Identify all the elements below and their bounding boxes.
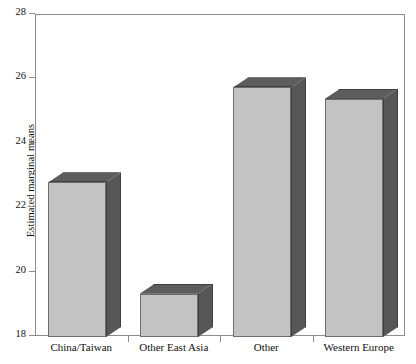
plot-area: [35, 14, 405, 336]
bar: [233, 77, 306, 337]
bar: [325, 89, 398, 337]
bar-chart: Estimated marginal means 182022242628 Ch…: [0, 0, 416, 364]
bar-front-face: [48, 182, 106, 337]
bar-front-face: [325, 99, 383, 337]
bar-front-face: [233, 87, 291, 337]
x-axis-category-label: Western Europe: [279, 341, 416, 353]
y-axis-tick-label: 26: [0, 70, 26, 81]
y-axis-tick-label: 20: [0, 264, 26, 275]
bar: [48, 172, 121, 337]
bar-side-face: [291, 77, 306, 337]
bar-side-face: [383, 89, 398, 337]
y-axis-title: Estimated marginal means: [25, 81, 36, 281]
bar-side-face: [106, 172, 121, 337]
y-axis-tick-label: 22: [0, 199, 26, 210]
bar: [140, 284, 213, 337]
y-axis-tick-label: 24: [0, 135, 26, 146]
y-axis-tick-label: 28: [0, 6, 26, 17]
bar-front-face: [140, 294, 198, 337]
y-axis-tick-label: 18: [0, 328, 26, 339]
